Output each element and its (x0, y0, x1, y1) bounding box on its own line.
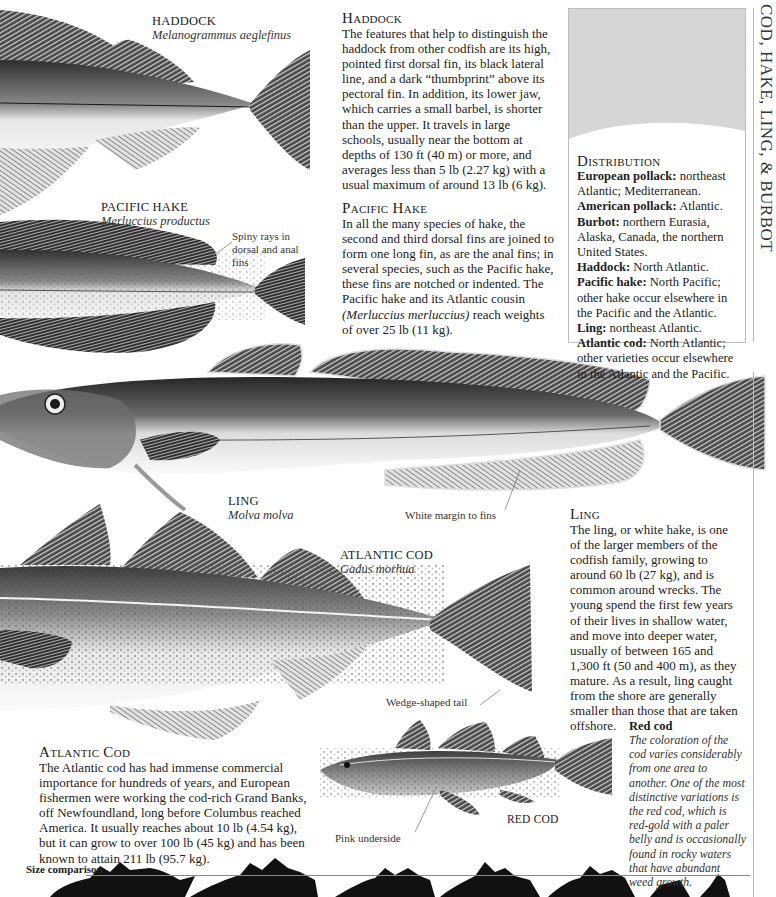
distribution-heading: Distribution (569, 147, 745, 169)
atlantic-cod-heading: Atlantic Cod (39, 744, 311, 760)
distribution-species: European pollack: (577, 169, 677, 183)
atlantic-cod-latin: Gadus morhua (340, 562, 433, 576)
distribution-species: Burbot: (577, 215, 620, 229)
distribution-entry: Burbot: northern Eurasia, Alaska, Canada… (577, 215, 739, 261)
ling-text: The ling, or white hake, is one of the l… (570, 522, 742, 733)
haddock-name: HADDOCK (152, 14, 291, 28)
distribution-range: North Atlantic. (630, 260, 709, 274)
size-comparison-rule (86, 875, 750, 876)
distribution-range: northeast Atlantic. (606, 321, 701, 335)
red-cod-illustration (320, 720, 612, 832)
distribution-species: American pollack: (577, 199, 677, 213)
ling-section: Ling The ling, or white hake, is one of … (570, 506, 742, 733)
pacific-hake-heading: Pacific Hake (342, 200, 557, 216)
page-rule-top (753, 8, 754, 342)
atlantic-cod-section: Atlantic Cod The Atlantic cod has had im… (39, 744, 311, 866)
callout-wedge-tail: Wedge-shaped tail (386, 696, 467, 709)
red-cod-section: Red cod The coloration of the cod varies… (629, 719, 747, 889)
distribution-box: Distribution European pollack: northeast… (568, 8, 746, 343)
pacific-hake-text-1: In all the many species of hake, the sec… (342, 216, 554, 306)
haddock-latin: Melanogrammus aeglefinus (152, 28, 291, 42)
distribution-list: European pollack: northeast Atlantic; Me… (569, 169, 745, 382)
distribution-entry: Ling: northeast Atlantic. (577, 321, 739, 336)
red-cod-name: RED COD (507, 812, 559, 826)
pacific-hake-section: Pacific Hake In all the many species of … (342, 200, 557, 337)
distribution-range: Atlantic. (677, 199, 723, 213)
ling-latin: Molva molva (228, 508, 294, 522)
page-rule-bottom (753, 372, 754, 897)
callout-white-margin: White margin to fins (405, 509, 496, 522)
ling-label: LING Molva molva (228, 494, 294, 522)
distribution-entry: Haddock: North Atlantic. (577, 260, 739, 275)
haddock-text: The features that help to distinguish th… (342, 26, 554, 192)
distribution-entry: Pacific hake: North Pacific; other hake … (577, 275, 739, 321)
pacific-hake-text-latin: (Merluccius merluccius) (342, 307, 469, 322)
distribution-species: Atlantic cod: (577, 336, 647, 350)
red-cod-text: The coloration of the cod varies conside… (629, 733, 747, 889)
pacific-hake-latin: Merluccius productus (101, 214, 210, 228)
haddock-label: HADDOCK Melanogrammus aeglefinus (152, 14, 291, 42)
running-head-vertical: COD, HAKE, LING, & BURBOT (756, 4, 776, 252)
atlantic-cod-text: The Atlantic cod has had immense commerc… (39, 760, 311, 866)
distribution-species: Pacific hake: (577, 275, 647, 289)
callout-pink-underside: Pink underside (335, 832, 401, 845)
haddock-section: Haddock The features that help to distin… (342, 10, 554, 192)
atlantic-cod-label: ATLANTIC COD Gadus morhua (340, 548, 433, 576)
distribution-entry: American pollack: Atlantic. (577, 199, 739, 214)
callout-spiny-rays: Spiny rays in dorsal and anal fins (232, 230, 312, 269)
map-wave-edge (569, 109, 745, 147)
atlantic-cod-name: ATLANTIC COD (340, 548, 433, 562)
world-map (569, 9, 745, 147)
ling-name: LING (228, 494, 294, 508)
size-comparison-label: Size comparison (26, 863, 103, 875)
pacific-hake-text: In all the many species of hake, the sec… (342, 216, 557, 337)
red-cod-heading: Red cod (629, 719, 747, 733)
pacific-hake-name: PACIFIC HAKE (101, 200, 210, 214)
distribution-entry: European pollack: northeast Atlantic; Me… (577, 169, 739, 199)
distribution-entry: Atlantic cod: North Atlantic; other vari… (577, 336, 739, 382)
distribution-species: Ling: (577, 321, 606, 335)
haddock-heading: Haddock (342, 10, 554, 26)
ling-heading: Ling (570, 506, 742, 522)
pacific-hake-label: PACIFIC HAKE Merluccius productus (101, 200, 210, 228)
distribution-species: Haddock: (577, 260, 630, 274)
